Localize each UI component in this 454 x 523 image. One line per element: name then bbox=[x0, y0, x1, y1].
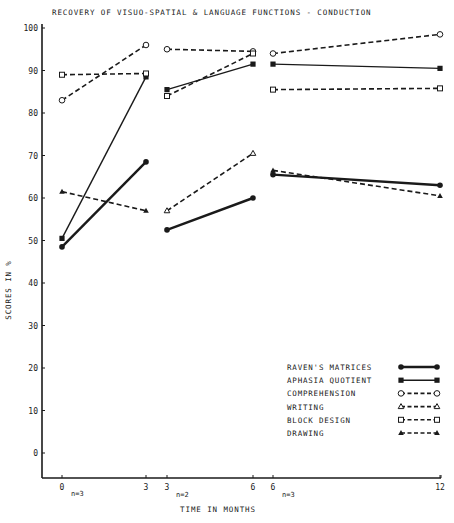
y-tick-label: 10 bbox=[28, 407, 38, 416]
series-drawing bbox=[62, 192, 146, 211]
y-tick-label: 20 bbox=[28, 364, 38, 373]
y-tick-label: 100 bbox=[24, 24, 39, 33]
x-tick-label: 3 bbox=[144, 483, 149, 492]
comprehension-marker bbox=[143, 42, 149, 48]
legend-comprehension-marker bbox=[434, 391, 440, 397]
x-tick-label: 6 bbox=[271, 483, 276, 492]
legend-writing-marker bbox=[434, 404, 440, 409]
raven-s-matrices-marker bbox=[270, 172, 276, 178]
y-tick-label: 0 bbox=[33, 449, 38, 458]
legend-writing-marker bbox=[398, 404, 404, 409]
series-aphasia-quotient bbox=[167, 64, 253, 90]
block-design-marker bbox=[165, 94, 170, 99]
group-n-label-3: n=3 bbox=[282, 491, 295, 499]
comprehension-marker bbox=[59, 97, 65, 103]
raven-s-matrices-marker bbox=[59, 244, 65, 250]
comprehension-marker bbox=[164, 46, 170, 52]
y-tick-label: 60 bbox=[28, 194, 38, 203]
series-block-design bbox=[167, 54, 253, 97]
y-axis-title: SCORES IN % bbox=[4, 260, 13, 320]
comprehension-marker bbox=[270, 51, 276, 57]
block-design-marker bbox=[251, 51, 256, 56]
series-comprehension bbox=[62, 45, 146, 100]
legend-label: BLOCK DESIGN bbox=[287, 416, 351, 425]
raven-s-matrices-marker bbox=[143, 159, 149, 165]
series-block-design bbox=[273, 88, 440, 89]
x-tick-label: 12 bbox=[435, 483, 445, 492]
comprehension-marker bbox=[437, 32, 443, 38]
drawing-marker bbox=[59, 189, 65, 194]
y-tick-label: 70 bbox=[28, 152, 38, 161]
aphasia-quotient-marker bbox=[164, 87, 169, 92]
aphasia-quotient-marker bbox=[270, 62, 275, 67]
raven-s-matrices-marker bbox=[250, 195, 256, 201]
series-comprehension bbox=[167, 49, 253, 51]
group-n-label-1: n=3 bbox=[71, 490, 84, 498]
block-design-marker bbox=[438, 86, 443, 91]
legend-label: COMPREHENSION bbox=[287, 389, 356, 398]
series-comprehension bbox=[273, 34, 440, 53]
series-aphasia-quotient bbox=[62, 77, 146, 239]
x-tick-label: 3 bbox=[165, 483, 170, 492]
series-raven-s-matrices bbox=[167, 198, 253, 230]
data-lines bbox=[59, 32, 443, 250]
group-n-label-2: n=2 bbox=[176, 491, 189, 499]
legend-label: APHASIA QUOTIENT bbox=[287, 376, 372, 385]
legend-aphasia-quotient-marker bbox=[434, 378, 439, 383]
aphasia-quotient-marker bbox=[437, 66, 442, 71]
writing-marker bbox=[250, 150, 256, 155]
legend-aphasia-quotient-marker bbox=[398, 378, 403, 383]
raven-s-matrices-marker bbox=[437, 182, 443, 188]
y-tick-label: 50 bbox=[28, 237, 38, 246]
series-raven-s-matrices bbox=[62, 162, 146, 247]
block-design-marker bbox=[60, 72, 65, 77]
legend-block-design-marker bbox=[435, 417, 440, 422]
y-tick-label: 30 bbox=[28, 322, 38, 331]
y-tick-label: 90 bbox=[28, 67, 38, 76]
series-block-design bbox=[62, 73, 146, 74]
aphasia-quotient-marker bbox=[59, 236, 64, 241]
legend-raven-s-matrices-marker bbox=[398, 364, 404, 370]
raven-s-matrices-marker bbox=[164, 227, 170, 233]
block-design-marker bbox=[271, 87, 276, 92]
x-axis-title: TIME IN MONTHS bbox=[180, 505, 256, 514]
aphasia-quotient-marker bbox=[250, 62, 255, 67]
legend-raven-s-matrices-marker bbox=[434, 364, 440, 370]
legend: RAVEN'S MATRICESAPHASIA QUOTIENTCOMPREHE… bbox=[287, 363, 440, 438]
y-tick-label: 40 bbox=[28, 279, 38, 288]
x-tick-label: 0 bbox=[60, 483, 65, 492]
legend-label: DRAWING bbox=[287, 429, 324, 438]
x-tick-label: 6 bbox=[251, 483, 256, 492]
block-design-marker bbox=[144, 71, 149, 76]
legend-label: RAVEN'S MATRICES bbox=[287, 363, 372, 372]
series-aphasia-quotient bbox=[273, 64, 440, 68]
drawing-marker bbox=[437, 193, 443, 198]
y-tick-label: 80 bbox=[28, 109, 38, 118]
legend-block-design-marker bbox=[399, 417, 404, 422]
line-chart: 01020304050607080901000336612 RAVEN'S MA… bbox=[0, 0, 454, 523]
legend-label: WRITING bbox=[287, 403, 324, 412]
axes: 01020304050607080901000336612 bbox=[24, 24, 445, 492]
legend-comprehension-marker bbox=[398, 391, 404, 397]
